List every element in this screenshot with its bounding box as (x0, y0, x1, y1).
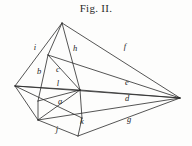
edge-left-hub (15, 86, 80, 90)
edge-apex-right (62, 23, 180, 98)
edge-apex-left (15, 23, 62, 86)
label-e: e (125, 77, 129, 87)
label-l: l (57, 78, 60, 88)
label-b: b (37, 66, 41, 76)
label-i: i (34, 42, 37, 52)
label-g: g (127, 114, 131, 124)
label-k: k (80, 116, 84, 126)
edge-hub-right (80, 90, 180, 98)
edge-left-k_node (15, 86, 82, 118)
label-a: a (58, 96, 62, 106)
label-h: h (73, 43, 77, 53)
figure-page: Fig. II. ihfbcleadjkg (0, 0, 192, 146)
figure-line-drawing: ihfbcleadjkg (0, 0, 192, 146)
label-c: c (56, 64, 60, 74)
edges-group (15, 23, 180, 136)
edge-inner_top-inner_left (38, 55, 48, 101)
label-f: f (124, 41, 128, 51)
label-j: j (55, 124, 59, 134)
